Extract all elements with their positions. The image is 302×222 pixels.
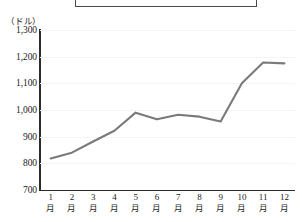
x-tick-label: 12月 bbox=[270, 192, 298, 214]
x-tick-month-suffix: 月 bbox=[270, 203, 298, 214]
x-axis-tick-labels: 1月2月3月4月5月6月7月8月9月10月11月12月 bbox=[40, 192, 295, 222]
y-tick-label: 1,200 bbox=[3, 52, 37, 62]
y-tick-label: 1,100 bbox=[3, 78, 37, 88]
y-axis-tick-labels: 7008009001,0001,1001,2001,300 bbox=[0, 30, 37, 190]
y-tick-label: 1,300 bbox=[3, 25, 37, 35]
plot-area bbox=[40, 30, 295, 190]
line-chart: （ドル） 7008009001,0001,1001,2001,300 1月2月3… bbox=[0, 0, 302, 222]
y-tick-label: 800 bbox=[3, 158, 37, 168]
y-tick-label: 900 bbox=[3, 132, 37, 142]
y-tick-label: 1,000 bbox=[3, 105, 37, 115]
data-series-line bbox=[40, 30, 295, 190]
title-box bbox=[75, 0, 257, 7]
x-tick-month-number: 12 bbox=[270, 192, 298, 203]
y-tick-label: 700 bbox=[3, 185, 37, 195]
